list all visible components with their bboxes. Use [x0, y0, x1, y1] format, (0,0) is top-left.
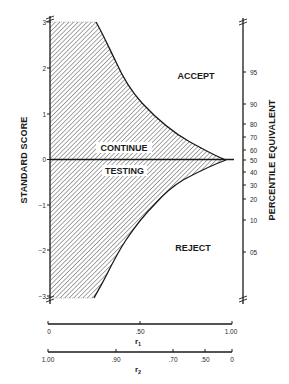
r2-axis: 1.00 .90 .70 .50 0 r2 — [42, 349, 235, 375]
right-tick-label: 80 — [250, 121, 258, 128]
right-tick-label: 30 — [250, 182, 258, 189]
r2-tick-label: .50 — [200, 356, 209, 363]
r1-axis: 0 .50 1.00 r1 — [47, 321, 238, 347]
r2-tick-label: .70 — [168, 356, 177, 363]
left-tick-label: 3 — [42, 19, 46, 26]
r1-tick-label: 1.00 — [225, 328, 238, 335]
right-tick-label: 05 — [250, 249, 258, 256]
reject-label: REJECT — [175, 243, 211, 253]
sequential-test-diagram: 3 2 1 0 −1 −2 −3 STANDARD SCORE 95 90 80… — [0, 0, 289, 384]
r1-tick-label: .50 — [135, 328, 144, 335]
testing-label: TESTING — [105, 166, 144, 176]
right-tick-label: 20 — [250, 196, 258, 203]
r2-axis-title: r2 — [135, 365, 141, 375]
right-axis-tick-labels: 95 90 80 70 60 50 40 30 20 10 05 — [250, 69, 258, 256]
left-tick-label: 0 — [42, 156, 46, 163]
accept-label: ACCEPT — [177, 71, 215, 81]
right-axis-title: PERCENTILE EQUIVALENT — [267, 99, 277, 220]
right-tick-label: 70 — [250, 134, 258, 141]
right-tick-label: 90 — [250, 101, 258, 108]
right-tick-label: 50 — [250, 157, 258, 164]
r1-tick-label: 0 — [47, 328, 51, 335]
right-tick-label: 95 — [250, 69, 258, 76]
r2-tick-label: .90 — [111, 356, 120, 363]
r2-tick-label: 1.00 — [42, 356, 55, 363]
right-tick-label: 40 — [250, 169, 258, 176]
left-tick-label: −2 — [39, 247, 47, 254]
left-axis-title: STANDARD SCORE — [19, 116, 29, 203]
right-tick-label: 60 — [250, 147, 258, 154]
r2-tick-label: 0 — [230, 356, 234, 363]
continue-label: CONTINUE — [101, 143, 148, 153]
right-axis — [239, 18, 247, 304]
left-tick-label: 1 — [42, 111, 46, 118]
left-tick-label: −1 — [39, 202, 47, 209]
left-tick-label: 2 — [42, 65, 46, 72]
r1-axis-title: r1 — [135, 337, 141, 347]
left-axis-tick-labels: 3 2 1 0 −1 −2 −3 — [39, 19, 47, 300]
right-tick-label: 10 — [250, 217, 258, 224]
left-tick-label: −3 — [39, 293, 47, 300]
